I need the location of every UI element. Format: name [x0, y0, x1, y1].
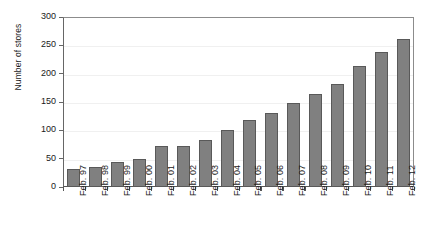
- x-tick-label: Feb. 09: [341, 165, 351, 196]
- y-tick-label: 300: [41, 11, 56, 22]
- x-tick-label: Feb. 11: [385, 165, 395, 196]
- x-tick-label: Feb. 04: [232, 165, 242, 196]
- x-tick-label: Feb. 12: [407, 165, 417, 196]
- y-tick-label: 50: [46, 153, 56, 164]
- x-tick-label: Feb. 02: [188, 165, 198, 196]
- x-tick-label: Feb. 03: [210, 165, 220, 196]
- y-axis-title: Number of stores: [13, 0, 23, 117]
- x-tick-mark: [63, 187, 64, 191]
- y-tick-label: 250: [41, 39, 56, 50]
- x-tick-label: Feb. 06: [275, 165, 285, 196]
- x-tick-label: Feb. 98: [100, 165, 110, 196]
- bar-chart: Number of stores 050100150200250300 Feb.…: [0, 0, 439, 247]
- y-tick-label: 200: [41, 68, 56, 79]
- y-tick-label: 100: [41, 124, 56, 135]
- x-tick-label: Feb. 00: [144, 165, 154, 196]
- x-tick-label: Feb. 08: [319, 165, 329, 196]
- x-tick-label: Feb. 05: [253, 165, 263, 196]
- x-tick-label: Feb. 97: [78, 165, 88, 196]
- x-tick-label: Feb. 10: [363, 165, 373, 196]
- x-tick-label: Feb. 07: [297, 165, 307, 196]
- bars-layer: [63, 17, 414, 187]
- x-tick-label: Feb. 01: [166, 165, 176, 196]
- y-tick-label: 150: [41, 96, 56, 107]
- x-tick-label: Feb. 99: [122, 165, 132, 196]
- y-tick-label: 0: [51, 181, 56, 192]
